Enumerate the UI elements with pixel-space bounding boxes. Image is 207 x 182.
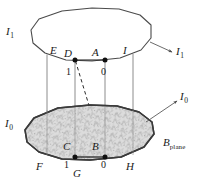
vertex-label-H: H: [126, 161, 134, 172]
leader-arrows: [146, 42, 177, 122]
vertex-label-F: F: [36, 161, 43, 172]
label-top-right-plane-base: I: [176, 46, 180, 57]
figure-canvas: I1 I1 I0 I0 Bplane E D A I 1 0 F C B G H…: [0, 0, 207, 182]
label-b-plane-base: B: [163, 136, 170, 148]
bottom-plane-polygon: [25, 105, 154, 160]
dot-top-one: [73, 58, 78, 63]
value-bottom-zero: 0: [101, 160, 106, 170]
top-plane-polygon: [31, 8, 151, 61]
label-bottom-left-plane: I0: [5, 118, 13, 131]
vertex-label-I: I: [123, 45, 127, 56]
label-top-right-plane: I1: [176, 46, 184, 59]
label-bottom-right-plane-sub: 0: [184, 96, 188, 105]
label-bottom-left-plane-base: I: [5, 118, 9, 129]
label-bottom-right-plane: I0: [180, 91, 188, 104]
label-b-plane-sub: plane: [170, 143, 186, 151]
vertex-label-E: E: [50, 45, 57, 56]
label-bottom-right-plane-base: I: [180, 91, 184, 102]
vertex-label-B: B: [92, 141, 99, 152]
label-top-left-plane-sub: 1: [10, 31, 14, 40]
dot-bottom-one: [73, 155, 78, 160]
value-top-one: 1: [66, 67, 71, 77]
label-top-left-plane-base: I: [6, 26, 10, 37]
vertex-label-G: G: [73, 168, 81, 179]
label-top-right-plane-sub: 1: [180, 51, 184, 60]
label-b-plane: Bplane: [163, 137, 185, 151]
vertex-label-C: C: [63, 141, 70, 152]
value-top-zero: 0: [101, 67, 106, 77]
value-bottom-one: 1: [64, 160, 69, 170]
label-top-left-plane: I1: [6, 26, 14, 39]
arrow-to-top-plane-label: [150, 42, 172, 52]
arrow-to-bottom-plane-label: [146, 101, 177, 122]
vertex-label-D: D: [64, 48, 72, 59]
dot-top-zero: [103, 58, 108, 63]
vertex-label-A: A: [92, 47, 99, 58]
diagram-svg: [0, 0, 207, 182]
label-bottom-left-plane-sub: 0: [9, 123, 13, 132]
